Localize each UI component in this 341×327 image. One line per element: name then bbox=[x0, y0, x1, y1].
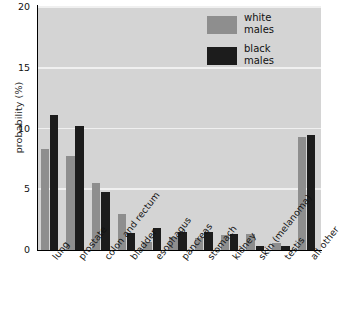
y-tick-label-0: 0 bbox=[0, 244, 30, 255]
bar-prostate-black-males bbox=[75, 126, 84, 250]
legend-label-white-males: white males bbox=[244, 12, 274, 35]
bar-colon-and-rectum-black-males bbox=[101, 192, 110, 250]
bar-group bbox=[64, 7, 90, 250]
bar-group bbox=[167, 7, 193, 250]
bar-lung-black-males bbox=[50, 115, 59, 250]
bar-lung-white-males bbox=[41, 149, 50, 250]
bar-prostate-white-males bbox=[66, 156, 75, 250]
legend-swatch-black-males bbox=[207, 47, 237, 65]
legend-label-white-males-line1: white bbox=[244, 12, 274, 24]
legend-label-black-males: black males bbox=[244, 43, 274, 66]
y-tick-label-15: 15 bbox=[0, 62, 30, 73]
y-axis-line bbox=[37, 5, 38, 251]
y-tick-label-20: 20 bbox=[0, 1, 30, 12]
legend-swatch-white-males bbox=[207, 16, 237, 34]
y-tick-label-5: 5 bbox=[0, 183, 30, 194]
bar-group bbox=[218, 7, 244, 250]
bar-all-other-black-males bbox=[307, 135, 316, 250]
legend-label-black-males-line2: males bbox=[244, 55, 274, 67]
plot-area bbox=[38, 7, 321, 250]
legend-label-black-males-line1: black bbox=[244, 43, 274, 55]
bar-group bbox=[38, 7, 64, 250]
bar-group bbox=[192, 7, 218, 250]
legend-label-white-males-line2: males bbox=[244, 24, 274, 36]
bar-group bbox=[89, 7, 115, 250]
y-tick-label-10: 10 bbox=[0, 123, 30, 134]
